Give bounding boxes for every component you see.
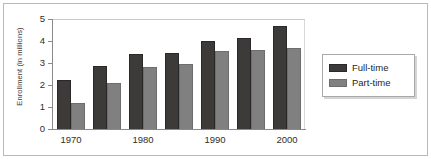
- y-tick-4: 4: [48, 41, 52, 42]
- legend-label-part-time: Part-time: [352, 77, 391, 88]
- bar-part-time-1985[interactable]: [179, 64, 193, 129]
- bar-group-1985: [165, 19, 193, 129]
- bar-group-1995: [237, 19, 265, 129]
- y-axis-title: Enrollment (in millions): [15, 7, 24, 127]
- bars-layer: [53, 19, 305, 129]
- bar-full-time-1970[interactable]: [57, 80, 71, 130]
- y-tick-label: 3: [40, 57, 45, 68]
- legend-label-full-time: Full-time: [352, 62, 388, 73]
- bar-part-time-2000[interactable]: [287, 48, 301, 129]
- bar-group-1990: [201, 19, 229, 129]
- y-tick-label: 2: [40, 79, 45, 90]
- y-tick-5: 5: [48, 19, 52, 20]
- bar-full-time-1980[interactable]: [129, 54, 143, 129]
- y-tick-2: 2: [48, 85, 52, 86]
- x-tick-label-1990: 1990: [195, 134, 235, 145]
- y-tick-label: 4: [40, 35, 45, 46]
- bar-group-2000: [273, 19, 301, 129]
- x-tick-label-2000: 2000: [267, 134, 307, 145]
- legend-swatch-full-time-icon: [329, 64, 347, 72]
- bar-part-time-1975[interactable]: [107, 83, 121, 129]
- x-tick-label-1970: 1970: [51, 134, 91, 145]
- bar-full-time-1990[interactable]: [201, 41, 215, 129]
- bar-group-1970: [57, 19, 85, 129]
- y-tick-1: 1: [48, 107, 52, 108]
- chart-figure: Enrollment (in millions) 543210 19701980…: [0, 0, 431, 159]
- y-tick-3: 3: [48, 63, 52, 64]
- y-tick-0: 0: [48, 129, 52, 130]
- legend-item-part-time[interactable]: Part-time: [329, 75, 410, 90]
- bar-part-time-1970[interactable]: [71, 103, 85, 129]
- bar-full-time-1995[interactable]: [237, 38, 251, 129]
- y-tick-label: 5: [40, 13, 45, 24]
- chart-legend: Full-time Part-time: [322, 54, 415, 97]
- bar-full-time-2000[interactable]: [273, 26, 287, 129]
- legend-item-full-time[interactable]: Full-time: [329, 60, 410, 75]
- bar-part-time-1980[interactable]: [143, 67, 157, 129]
- bar-full-time-1985[interactable]: [165, 53, 179, 129]
- x-tick-label-1980: 1980: [123, 134, 163, 145]
- bar-part-time-1990[interactable]: [215, 51, 229, 129]
- bar-part-time-1995[interactable]: [251, 50, 265, 129]
- bar-group-1980: [129, 19, 157, 129]
- x-axis-line: [52, 129, 306, 130]
- bar-full-time-1975[interactable]: [93, 66, 107, 129]
- legend-swatch-part-time-icon: [329, 79, 347, 87]
- y-tick-label: 0: [40, 123, 45, 134]
- y-tick-label: 1: [40, 101, 45, 112]
- bar-group-1975: [93, 19, 121, 129]
